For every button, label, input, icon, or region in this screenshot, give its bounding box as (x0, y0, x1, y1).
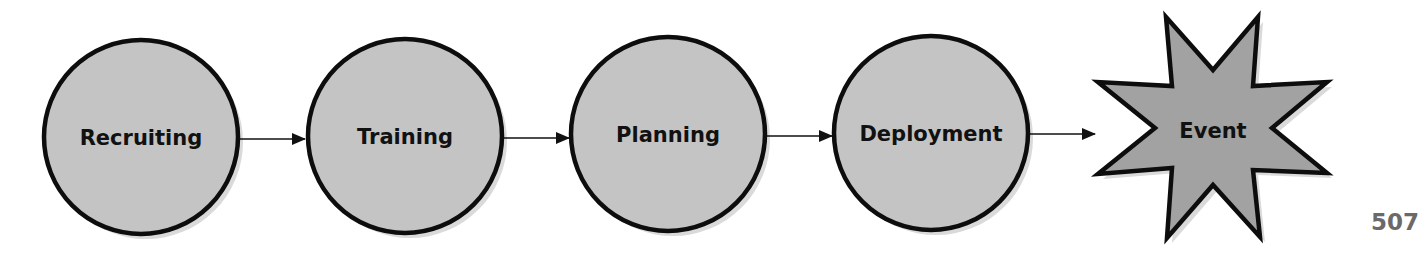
node-label-recruiting: Recruiting (80, 126, 203, 150)
page-number: 507 (1371, 209, 1419, 235)
node-label-training: Training (357, 125, 453, 149)
node-deployment: Deployment (834, 36, 1028, 230)
node-label-planning: Planning (616, 123, 720, 147)
node-training: Training (308, 39, 502, 233)
node-recruiting: Recruiting (44, 40, 238, 234)
node-label-event: Event (1179, 119, 1246, 143)
node-event: Event (1098, 17, 1327, 238)
node-planning: Planning (571, 37, 765, 231)
process-flow-diagram: Recruiting Training Planning Deployment … (0, 0, 1425, 266)
node-label-deployment: Deployment (859, 122, 1002, 146)
